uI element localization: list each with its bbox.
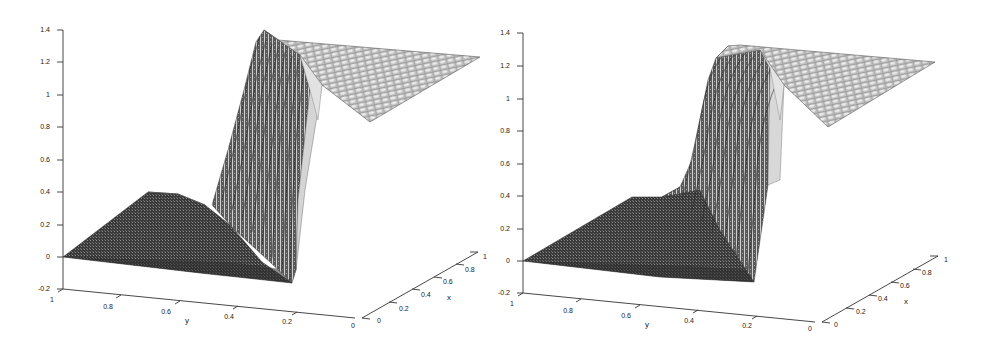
right-y-axis-label: y <box>645 320 649 329</box>
left-y-tick-label: 0.4 <box>224 313 234 320</box>
left-x-tick-label: 0.8 <box>465 266 475 273</box>
right-z-tick-label: 0 <box>506 257 510 264</box>
right-y-tick-label: 0.6 <box>621 312 631 319</box>
right-x-tick-label: 0.6 <box>900 282 910 289</box>
right-z-tick-label: 1.2 <box>500 62 510 69</box>
right-x-axis-label: x <box>904 297 908 306</box>
left-z-tick-label: 1.2 <box>40 58 50 65</box>
left-z-tick-label: 0 <box>46 253 50 260</box>
right-z-tick-label: 0.4 <box>500 192 510 199</box>
right-y-tick-label: 0.4 <box>684 317 694 324</box>
right-surface-plot: 1.4 1.2 1 0.8 0.6 0.4 0.2 0 -0.2 1 0.8 0… <box>498 29 948 332</box>
left-x-axis-label: x <box>447 293 451 302</box>
right-z-tick-label: -0.2 <box>498 289 510 296</box>
left-x-tick-label: 0 <box>377 317 381 324</box>
right-x-tick-label: 0.2 <box>856 308 866 315</box>
left-x-tick-label: 1 <box>483 253 487 260</box>
right-x-tick-label: 0 <box>834 321 838 328</box>
left-y-ticks: 1 0.8 0.6 0.4 0.2 0 y <box>50 289 355 329</box>
right-x-axis <box>822 256 938 322</box>
figure: 1.4 1.2 1 0.8 0.6 0.4 0.2 0 -0.2 1 0.8 0… <box>0 0 983 344</box>
left-z-tick-label: 0.4 <box>40 188 50 195</box>
left-z-tick-label: 1 <box>46 91 50 98</box>
right-y-tick-label: 0.8 <box>563 307 573 314</box>
left-x-ticks: 0 0.2 0.4 0.6 0.8 1 x <box>362 252 487 324</box>
left-z-ticks: 1.4 1.2 1 0.8 0.6 0.4 0.2 0 -0.2 <box>38 26 63 292</box>
right-x-tick-label: 1 <box>944 256 948 263</box>
right-z-tick-label: 0.8 <box>500 127 510 134</box>
right-y-tick-label: 0.2 <box>742 322 752 329</box>
left-z-tick-label: 0.2 <box>40 221 50 228</box>
right-surface <box>523 45 935 282</box>
right-z-tick-label: 1 <box>506 95 510 102</box>
left-x-tick-label: 0.4 <box>421 291 431 298</box>
left-x-axis <box>362 252 478 318</box>
left-y-tick-label: 1 <box>50 296 54 303</box>
left-surface-plot: 1.4 1.2 1 0.8 0.6 0.4 0.2 0 -0.2 1 0.8 0… <box>38 26 487 329</box>
left-y-tick-label: 0.2 <box>282 318 292 325</box>
left-x-tick-label: 0.2 <box>399 305 409 312</box>
right-y-tick-label: 1 <box>510 300 514 307</box>
right-z-ticks: 1.4 1.2 1 0.8 0.6 0.4 0.2 0 -0.2 <box>498 29 523 296</box>
left-z-tick-label: -0.2 <box>38 285 50 292</box>
left-x-tick-label: 0.6 <box>443 278 453 285</box>
right-y-tick-label: 0 <box>808 325 812 332</box>
right-z-tick-label: 0.2 <box>500 225 510 232</box>
right-x-tick-label: 0.8 <box>922 269 932 276</box>
left-z-tick-label: 0.6 <box>40 156 50 163</box>
right-x-tick-label: 0.4 <box>878 295 888 302</box>
left-z-tick-label: 0.8 <box>40 123 50 130</box>
left-y-tick-label: 0 <box>351 322 355 329</box>
left-z-tick-label: 1.4 <box>40 26 50 33</box>
left-surface <box>63 30 480 283</box>
right-z-tick-label: 0.6 <box>500 160 510 167</box>
right-z-tick-label: 1.4 <box>500 29 510 36</box>
left-y-tick-label: 0.8 <box>103 303 113 310</box>
left-y-tick-label: 0.6 <box>161 308 171 315</box>
right-y-ticks: 1 0.8 0.6 0.4 0.2 0 y <box>510 293 812 332</box>
left-y-axis-label: y <box>185 316 189 325</box>
right-x-ticks: 0 0.2 0.4 0.6 0.8 1 x <box>822 256 948 328</box>
